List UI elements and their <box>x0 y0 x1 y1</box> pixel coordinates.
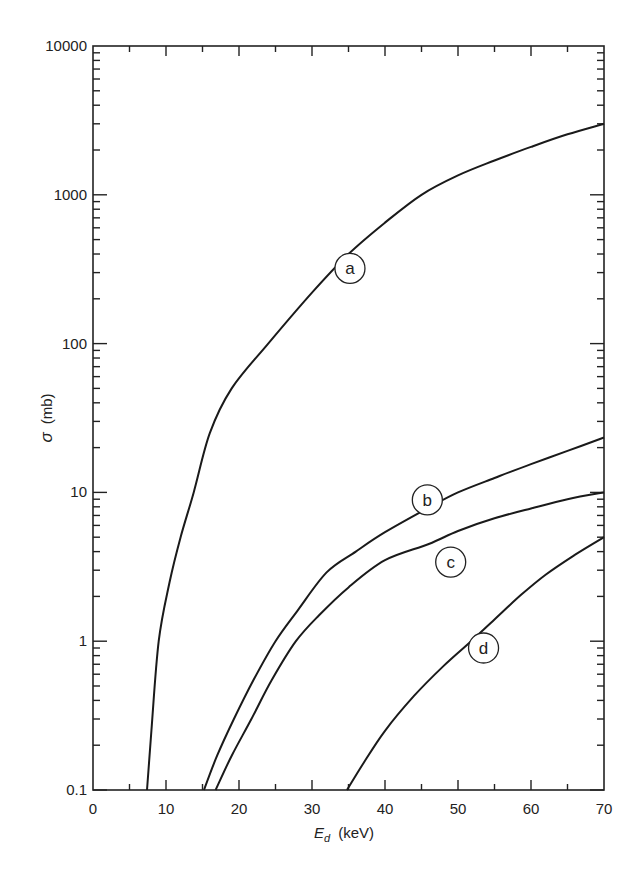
curve-c <box>216 492 604 790</box>
x-tick-label: 50 <box>450 800 467 817</box>
y-tick-label: 100 <box>62 335 87 352</box>
x-tick-label: 10 <box>158 800 175 817</box>
curve-b <box>204 438 604 791</box>
svg-text:b: b <box>423 491 432 510</box>
cross-section-chart: abcd 010203040506070 0.1110100100010000 … <box>0 0 642 871</box>
axis-ticks <box>93 46 604 790</box>
x-tick-label: 60 <box>523 800 540 817</box>
svg-text:c: c <box>446 553 455 572</box>
svg-text:σ(mb): σ(mb) <box>37 393 56 442</box>
y-tick-label: 1000 <box>54 186 87 203</box>
svg-text:a: a <box>345 259 355 278</box>
curve-label-c: c <box>436 547 466 577</box>
x-tick-label: 40 <box>377 800 394 817</box>
x-tick-label: 70 <box>596 800 613 817</box>
y-tick-label: 1 <box>79 632 87 649</box>
x-tick-label: 20 <box>231 800 248 817</box>
x-tick-labels: 010203040506070 <box>89 800 613 817</box>
x-axis-label: Ed(keV) <box>314 824 374 844</box>
x-tick-label: 0 <box>89 800 97 817</box>
x-tick-label: 30 <box>304 800 321 817</box>
y-tick-label: 0.1 <box>66 781 87 798</box>
curve-a <box>147 124 604 790</box>
curve-label-a: a <box>335 253 365 283</box>
y-axis-label: σ(mb) <box>37 393 56 442</box>
curves <box>147 124 604 790</box>
curve-label-b: b <box>412 485 442 515</box>
curve-d <box>347 537 604 790</box>
curve-labels: abcd <box>335 253 499 663</box>
y-tick-label: 10000 <box>45 37 87 54</box>
curve-label-d: d <box>469 633 499 663</box>
svg-text:d: d <box>479 639 488 658</box>
plot-frame <box>93 46 604 790</box>
y-tick-label: 10 <box>70 483 87 500</box>
